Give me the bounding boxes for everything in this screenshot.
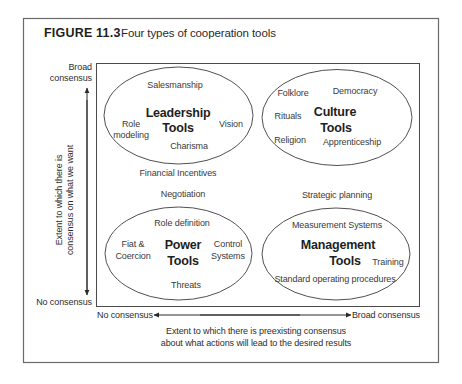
item-vision: Vision [219, 119, 243, 129]
x-axis-right-label: Broad consensus [352, 310, 421, 320]
power-title-line1: Power [165, 238, 202, 252]
item-role: Role [122, 119, 140, 129]
management-title-line2: Tools [329, 254, 361, 268]
management-tools-cluster: Measurement Systems Management Tools Tra… [262, 208, 410, 300]
item-salesmanship: Salesmanship [147, 80, 202, 90]
item-negotiation: Negotiation [161, 189, 206, 199]
figure-caption: Four types of cooperation tools [121, 27, 276, 39]
item-democracy: Democracy [333, 86, 378, 96]
cooperation-tools-figure: FIGURE 11.3 Four types of cooperation to… [0, 0, 462, 384]
item-fiat: Fiat & [122, 239, 145, 249]
quadrant-box [97, 64, 420, 307]
item-folklore: Folklore [277, 88, 308, 98]
figure-label: FIGURE 11.3 [44, 26, 121, 40]
item-religion: Religion [274, 135, 306, 145]
y-axis-title: Extent to which there is consensus on wh… [54, 144, 75, 255]
item-threats: Threats [171, 280, 201, 290]
item-control: Control [214, 239, 242, 249]
y-axis-title-line2: consensus on what we want [65, 144, 75, 255]
item-modeling: modeling [113, 130, 149, 140]
culture-title-line2: Tools [320, 121, 352, 135]
power-tools-cluster: Role definition Fiat & Coercion Power To… [105, 207, 252, 300]
item-coercion: Coercion [115, 251, 150, 261]
item-measurement-systems: Measurement Systems [292, 220, 383, 230]
leadership-title-line1: Leadership [146, 106, 211, 120]
item-apprenticeship: Apprenticeship [323, 137, 381, 147]
x-axis-left-label: No consensus [97, 310, 153, 320]
item-systems: Systems [211, 251, 245, 261]
x-axis-title-line1: Extent to which there is preexisting con… [166, 326, 347, 336]
item-strategic-planning: Strategic planning [302, 190, 372, 200]
management-title-line1: Management [301, 238, 376, 252]
culture-tools-cluster: Folklore Democracy Rituals Culture Tools… [262, 70, 412, 166]
item-rituals: Rituals [275, 111, 302, 121]
item-role-definition: Role definition [154, 218, 210, 228]
y-axis-top-label-line1: Broad [68, 62, 92, 72]
item-standard-operating-procedures: Standard operating procedures [274, 274, 396, 284]
y-axis-bottom-label: No consensus [36, 297, 92, 307]
x-axis-title-line2: about what actions will lead to the desi… [161, 338, 352, 348]
y-axis-title-line1: Extent to which there is [54, 154, 64, 245]
y-axis-top-label-line2: consensus [50, 73, 93, 83]
item-charisma: Charisma [170, 141, 208, 151]
power-title-line2: Tools [167, 254, 199, 268]
leadership-tools-cluster: Salesmanship Leadership Tools Role model… [104, 67, 253, 164]
item-financial-incentives: Financial Incentives [139, 168, 217, 178]
leadership-title-line2: Tools [162, 121, 194, 135]
culture-title-line1: Culture [314, 105, 357, 119]
item-training: Training [372, 257, 403, 267]
